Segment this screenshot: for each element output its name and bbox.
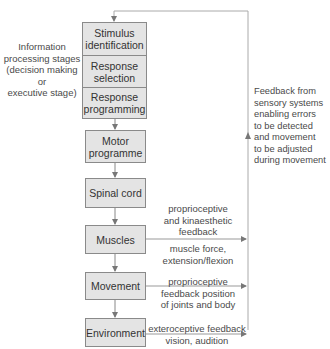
feedback-label-line: and movement: [254, 132, 330, 144]
muscles-feedback-below: muscle force, extension/flexion: [148, 243, 248, 266]
box-label: Spinal cord: [89, 187, 142, 199]
feedback-label: Feedback from sensory systems enabling e…: [254, 86, 330, 167]
feedback-up-arrow-icon: [245, 132, 251, 139]
feedback-text-line: muscle force,: [148, 243, 248, 255]
box-label: Response: [91, 60, 138, 72]
feedback-label-line: to be detected: [254, 121, 330, 133]
stages-label: Information processing stages (decision …: [2, 41, 82, 99]
box-label: programme: [89, 147, 143, 159]
box-label: Response: [84, 91, 146, 103]
feedback-text-line: proprioceptive: [148, 276, 248, 288]
feedback-text-line: extension/flexion: [148, 255, 248, 267]
stages-label-line: Information: [2, 41, 82, 53]
movement-box: Movement: [85, 272, 146, 300]
feedback-text-line: exteroceptive feedback: [146, 323, 248, 335]
feedback-label-line: sensory systems: [254, 98, 330, 110]
feedback-label-line: during movement: [254, 155, 330, 167]
box-label: programming: [84, 103, 146, 115]
stages-label-line: (decision making: [2, 64, 82, 76]
movement-feedback: proprioceptive feedback position of join…: [148, 276, 248, 311]
feedback-text-line: proprioceptive: [148, 203, 248, 215]
response-programming-box: Responseprogramming: [82, 87, 147, 119]
feedback-text-line: feedback: [148, 226, 248, 238]
box-label: identification: [85, 39, 143, 51]
feedback-label-line: to be adjusted: [254, 144, 330, 156]
muscles-feedback-above: proprioceptive and kinaesthetic feedback: [148, 203, 248, 238]
feedback-text-line: and kinaesthetic: [148, 215, 248, 227]
box-label: Muscles: [96, 234, 135, 246]
muscles-box: Muscles: [85, 225, 146, 254]
environment-box: Environment: [85, 318, 146, 347]
stages-label-line: processing stages: [2, 53, 82, 65]
box-label: Environment: [86, 327, 145, 339]
response-selection-box: Responseselection: [82, 55, 147, 87]
spinal-cord-box: Spinal cord: [85, 178, 146, 208]
feedback-label-line: enabling errors: [254, 109, 330, 121]
box-label: Motor: [89, 135, 143, 147]
feedback-text-line: of joints and body: [148, 299, 248, 311]
box-label: Stimulus: [85, 27, 143, 39]
stages-label-line: or: [2, 76, 82, 88]
box-label: selection: [91, 72, 138, 84]
box-label: Movement: [91, 280, 140, 292]
motor-programme-box: Motorprogramme: [85, 130, 146, 163]
environment-feedback: exteroceptive feedback vision, audition: [146, 323, 248, 346]
feedback-text-line: vision, audition: [146, 335, 248, 347]
stimulus-identification-box: Stimulusidentification: [82, 22, 147, 55]
feedback-label-line: Feedback from: [254, 86, 330, 98]
feedback-text-line: feedback position: [148, 288, 248, 300]
stages-label-line: executive stage): [2, 87, 82, 99]
